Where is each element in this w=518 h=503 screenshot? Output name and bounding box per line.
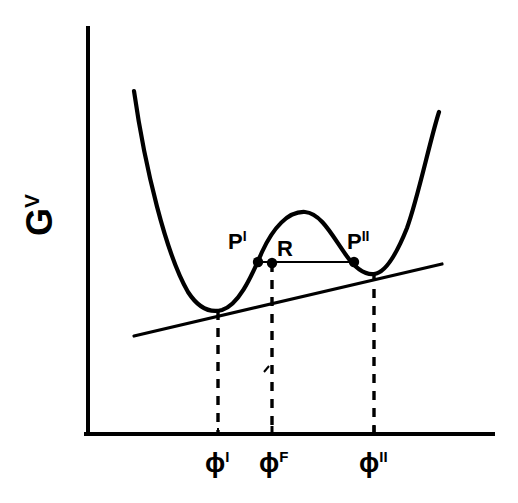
x-axis-label-phi-F: ϕF	[259, 449, 288, 477]
y-axis-label: GV	[8, 175, 72, 255]
y-axis-label-base: G	[19, 208, 60, 236]
x-axis-label-phi-II-superscript: II	[379, 448, 387, 465]
y-axis-label-superscript: V	[20, 194, 43, 208]
x-axis-label-phi-II-base: ϕ	[359, 448, 379, 478]
point-label-P-I-base: P	[228, 229, 243, 254]
point-P-I-marker	[253, 257, 263, 267]
y-axis-label-text: GV	[19, 194, 61, 236]
point-label-P-I: PI	[228, 229, 247, 253]
x-axis-label-phi-F-base: ϕ	[259, 448, 279, 478]
point-label-P-II-base: P	[347, 229, 362, 254]
x-axis-label-phi-F-superscript: F	[279, 448, 288, 465]
point-label-R: R	[277, 236, 293, 260]
point-label-P-II-superscript: II	[362, 228, 370, 244]
diagram-canvas	[0, 0, 518, 503]
point-label-P-II: PII	[347, 229, 369, 253]
x-axis-label-phi-II: ϕII	[359, 449, 388, 477]
x-axis-label-phi-I-base: ϕ	[205, 448, 225, 478]
dashed-verticals-group	[218, 263, 374, 433]
free-energy-curve	[134, 91, 439, 311]
axes-group	[86, 28, 493, 434]
stray-mark-near-phi-F	[264, 366, 269, 372]
free-energy-diagram: GV PI R PII ϕI ϕF ϕII	[0, 0, 518, 503]
point-label-R-base: R	[277, 236, 293, 261]
point-P-II-marker	[349, 257, 359, 267]
x-axis-label-phi-I: ϕI	[205, 449, 229, 477]
point-label-P-I-superscript: I	[243, 228, 247, 244]
point-R-marker	[267, 258, 277, 268]
x-axis-label-phi-I-superscript: I	[225, 448, 229, 465]
